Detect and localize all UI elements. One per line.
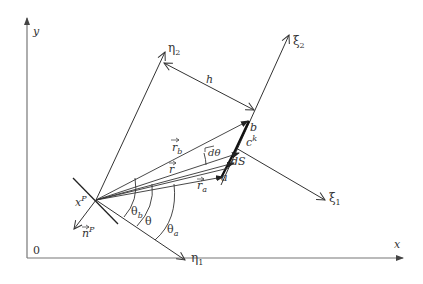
xi2-label: ξ2 bbox=[293, 34, 305, 50]
theta-b-label: θb bbox=[131, 205, 143, 220]
source-point-label: xP bbox=[75, 194, 87, 209]
label-ra: ra bbox=[197, 177, 207, 194]
distance-h-dimension bbox=[164, 63, 254, 110]
eta2-axis bbox=[96, 52, 165, 200]
vector-r-upper bbox=[96, 153, 239, 200]
svg-text:r: r bbox=[169, 163, 175, 176]
end-b-label: b bbox=[250, 121, 257, 134]
eta2-label: η2 bbox=[168, 41, 180, 57]
boundary-element-diagram: y x 0 η2 η1 ξ2 ξ1 h b ck dS a rb r bbox=[0, 0, 423, 284]
dtheta-label: dθ bbox=[208, 147, 220, 158]
x-axis-label: x bbox=[394, 238, 401, 251]
vector-r bbox=[96, 163, 234, 200]
end-a-label: a bbox=[221, 171, 228, 184]
theta-a-label: θa bbox=[167, 223, 179, 238]
radius-vectors bbox=[96, 121, 248, 200]
label-rb: rb bbox=[171, 138, 182, 156]
vector-ra-inner bbox=[96, 168, 229, 200]
vector-rb bbox=[96, 121, 248, 200]
distance-h-label: h bbox=[206, 73, 213, 86]
boundary-element-ck bbox=[221, 121, 249, 178]
xi1-label: ξ1 bbox=[329, 191, 341, 207]
normal-label: nP bbox=[82, 225, 95, 240]
y-axis-label: y bbox=[32, 25, 40, 38]
svg-text:ra: ra bbox=[197, 179, 207, 194]
element-ck-label: ck bbox=[246, 134, 257, 149]
ds-label: dS bbox=[231, 155, 246, 168]
eta1-label: η1 bbox=[191, 251, 203, 267]
xi1-axis bbox=[236, 148, 325, 200]
origin-label: 0 bbox=[33, 244, 40, 257]
theta-label: θ bbox=[145, 215, 152, 228]
dtheta-arc bbox=[204, 153, 206, 165]
svg-text:rb: rb bbox=[172, 141, 182, 156]
